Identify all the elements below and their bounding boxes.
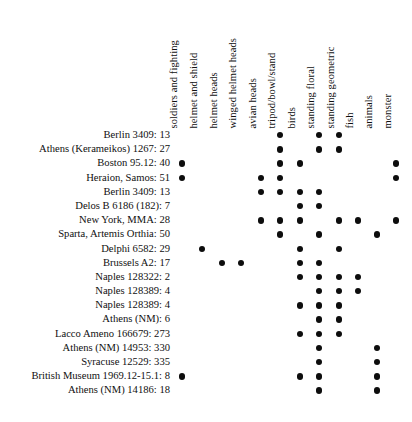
row-label: New York, MMA: 28 <box>0 213 176 227</box>
matrix-row <box>176 383 412 397</box>
matrix-dot <box>336 146 342 152</box>
row-label: Lacco Ameno 166679: 273 <box>0 327 176 341</box>
matrix-dot <box>219 260 225 266</box>
matrix-dot <box>179 175 185 181</box>
matrix-dot <box>297 274 303 280</box>
matrix-row <box>176 128 412 142</box>
row-label: Naples 128322: 2 <box>0 270 176 284</box>
matrix-dot <box>374 231 380 237</box>
matrix-dot <box>277 146 283 152</box>
matrix-dot <box>316 387 322 393</box>
matrix-dot <box>297 217 303 223</box>
row-label: Berlin 3409: 13 <box>0 128 176 142</box>
column-header-avian-heads: avian heads <box>247 78 258 128</box>
row-label: Syracuse 12529: 335 <box>0 355 176 369</box>
matrix-dot <box>316 274 322 280</box>
matrix-dot <box>258 189 264 195</box>
column-header-fish: fish <box>344 112 355 128</box>
matrix-dot <box>374 387 380 393</box>
matrix-dot <box>297 246 303 252</box>
column-header-standing-floral: standing floral <box>305 66 316 128</box>
matrix-row <box>176 156 412 170</box>
matrix-row <box>176 227 412 241</box>
row-label: British Museum 1969.12-15.1: 8 <box>0 369 176 383</box>
matrix-dot <box>199 246 205 252</box>
matrix-dot <box>179 373 185 379</box>
matrix-dot <box>297 331 303 337</box>
row-label: Sparta, Artemis Orthia: 50 <box>0 227 176 241</box>
dot-grid <box>176 128 412 418</box>
row-label: Athens (NM) 14953: 330 <box>0 341 176 355</box>
matrix-dot <box>316 331 322 337</box>
column-header-winged-helmet-heads: winged helmet heads <box>227 37 238 128</box>
matrix-dot <box>336 274 342 280</box>
matrix-dot <box>258 175 264 181</box>
matrix-row <box>176 171 412 185</box>
matrix-row <box>176 298 412 312</box>
matrix-dot <box>316 132 322 138</box>
matrix-dot <box>393 160 399 166</box>
matrix-row <box>176 213 412 227</box>
matrix-dot <box>316 189 322 195</box>
matrix-dot <box>336 246 342 252</box>
matrix-row <box>176 355 412 369</box>
matrix-dot <box>316 316 322 322</box>
column-header-helmet-heads: helmet heads <box>208 72 219 128</box>
matrix-dot <box>336 217 342 223</box>
row-label-column: Berlin 3409: 13Athens (Kerameikos) 1267:… <box>0 128 176 398</box>
row-label: Delos B 6186 (182): 7 <box>0 199 176 213</box>
matrix-dot <box>297 373 303 379</box>
column-header-monster: monster <box>382 93 393 128</box>
matrix-dot <box>316 260 322 266</box>
matrix-dot <box>374 373 380 379</box>
column-header-standing-geometric: standing geometric <box>325 46 336 128</box>
row-label: Berlin 3409: 13 <box>0 185 176 199</box>
column-header-animals: animals <box>363 95 374 128</box>
matrix-row <box>176 341 412 355</box>
matrix-dot <box>355 217 361 223</box>
matrix-dot <box>336 302 342 308</box>
matrix-dot <box>297 189 303 195</box>
matrix-dot <box>355 274 361 280</box>
matrix-row <box>176 185 412 199</box>
matrix-dot <box>336 288 342 294</box>
matrix-dot <box>393 175 399 181</box>
matrix-dot <box>179 160 185 166</box>
matrix-dot <box>316 231 322 237</box>
matrix-row <box>176 199 412 213</box>
matrix-dot <box>374 345 380 351</box>
matrix-dot <box>393 217 399 223</box>
row-label: Brussels A2: 17 <box>0 256 176 270</box>
matrix-dot <box>277 231 283 237</box>
column-header-row: soldiers and fightinghelmet and shieldhe… <box>0 0 412 128</box>
matrix-dot <box>297 302 303 308</box>
matrix-dot <box>277 189 283 195</box>
row-label: Athens (NM): 6 <box>0 312 176 326</box>
matrix-row <box>176 327 412 341</box>
row-label: Athens (Kerameikos) 1267: 27 <box>0 142 176 156</box>
matrix-dot <box>297 160 303 166</box>
row-label: Heraion, Samos: 51 <box>0 171 176 185</box>
matrix-dot <box>355 288 361 294</box>
dot-matrix-figure: soldiers and fightinghelmet and shieldhe… <box>0 0 412 422</box>
column-header-soldiers-and-fighting: soldiers and fighting <box>168 40 179 128</box>
column-header-tripod-bowl-stand: tripod/bowl/stand <box>266 52 277 128</box>
matrix-dot <box>277 132 283 138</box>
matrix-dot <box>277 217 283 223</box>
matrix-row <box>176 284 412 298</box>
matrix-dot <box>316 359 322 365</box>
matrix-row <box>176 312 412 326</box>
column-header-helmet-and-shield: helmet and shield <box>188 52 199 128</box>
matrix-dot <box>316 345 322 351</box>
matrix-dot <box>297 260 303 266</box>
matrix-dot <box>336 331 342 337</box>
matrix-dot <box>258 217 264 223</box>
matrix-dot <box>374 359 380 365</box>
matrix-dot <box>316 373 322 379</box>
matrix-dot <box>277 175 283 181</box>
row-label: Boston 95.12: 40 <box>0 156 176 170</box>
row-label: Naples 128389: 4 <box>0 298 176 312</box>
row-label: Delphi 6582: 29 <box>0 242 176 256</box>
matrix-dot <box>316 146 322 152</box>
matrix-row <box>176 256 412 270</box>
